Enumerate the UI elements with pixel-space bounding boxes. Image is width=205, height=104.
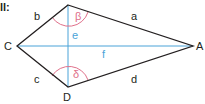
vertex-a-label: A [196,40,204,52]
side-c-label: c [34,73,40,85]
header-label: ll: [0,1,10,13]
diagonal-f-label: f [102,48,106,60]
side-d-label: d [131,73,137,85]
kite-diagram: ll: β δ e f b a c d C A D [0,0,205,104]
vertex-d-label: D [63,91,71,103]
side-a-label: a [131,10,138,22]
angle-beta-label: β [75,10,81,22]
vertex-c-label: C [4,40,12,52]
angle-delta-label: δ [73,68,79,80]
diagonal-e-label: e [72,29,78,41]
side-b-label: b [34,10,40,22]
